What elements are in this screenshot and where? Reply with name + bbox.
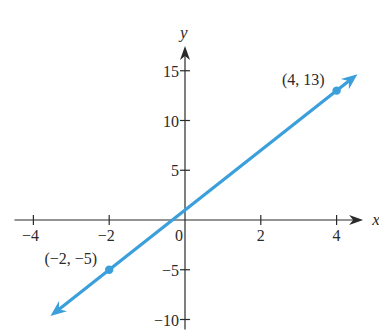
line-chart: xy −4−202415105−5−10 (4, 13)(−2, −5) <box>0 0 379 332</box>
x-axis-label: x <box>371 210 379 229</box>
series-line <box>58 80 351 311</box>
point-label: (4, 13) <box>282 71 325 89</box>
y-axis-label: y <box>178 23 188 42</box>
point-label: (−2, −5) <box>44 250 97 268</box>
data-series <box>50 74 357 316</box>
y-tick-label: 10 <box>163 113 179 130</box>
x-tick-label: 4 <box>333 227 341 244</box>
axes: xy <box>14 23 379 330</box>
tick-labels: −4−202415105−5−10 <box>22 63 341 329</box>
y-tick-label: 5 <box>171 162 179 179</box>
x-tick-label: 2 <box>257 227 265 244</box>
y-tick-label: −5 <box>162 262 179 279</box>
y-tick-label: −10 <box>154 312 179 329</box>
x-tick-label: 0 <box>175 227 183 244</box>
chart-canvas: xy −4−202415105−5−10 (4, 13)(−2, −5) <box>0 0 379 332</box>
data-point <box>105 266 113 274</box>
x-tick-label: −4 <box>22 227 39 244</box>
x-tick-label: −2 <box>98 227 115 244</box>
data-point <box>332 86 340 94</box>
y-tick-label: 15 <box>163 63 179 80</box>
